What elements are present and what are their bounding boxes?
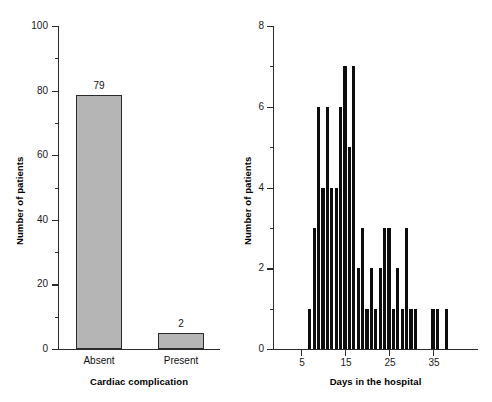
histogram-bar bbox=[370, 268, 373, 349]
panel-days-in-hospital: 8 6 4 2 0 Number of patients 5 15 25 35 … bbox=[246, 0, 492, 402]
left-yminortick-30 bbox=[55, 252, 59, 253]
left-x-axis bbox=[58, 349, 220, 350]
histogram-bars bbox=[246, 0, 492, 402]
left-ytick-label-20: 20 bbox=[18, 279, 48, 289]
right-x-axis-title: Days in the hospital bbox=[273, 376, 478, 387]
histogram-bar bbox=[352, 66, 355, 349]
histogram-bar bbox=[321, 188, 324, 350]
bar-absent bbox=[76, 95, 122, 349]
left-x-axis-title: Cardiac complication bbox=[58, 376, 220, 387]
left-ytick-0 bbox=[52, 349, 58, 350]
histogram-bar bbox=[357, 268, 360, 349]
histogram-bar bbox=[343, 66, 346, 349]
histogram-bar bbox=[308, 309, 311, 349]
left-ytick-40 bbox=[52, 220, 58, 221]
left-yminortick-70 bbox=[55, 123, 59, 124]
xtick-label-absent: Absent bbox=[69, 355, 129, 366]
histogram-bar bbox=[436, 309, 439, 349]
left-ytick-60 bbox=[52, 155, 58, 156]
histogram-bar bbox=[396, 268, 399, 349]
histogram-bar bbox=[335, 188, 338, 350]
histogram-bar bbox=[374, 309, 377, 349]
histogram-bar bbox=[330, 188, 333, 350]
histogram-bar bbox=[379, 268, 382, 349]
histogram-bar bbox=[348, 147, 351, 349]
left-y-axis-title: Number of patients bbox=[14, 157, 25, 245]
left-ytick-100 bbox=[52, 26, 58, 27]
left-yminortick-10 bbox=[55, 317, 59, 318]
histogram-bar bbox=[365, 309, 368, 349]
histogram-bar bbox=[405, 228, 408, 349]
histogram-bar bbox=[361, 228, 364, 349]
histogram-bar bbox=[317, 107, 320, 349]
histogram-bar bbox=[326, 107, 329, 349]
bar-value-absent: 79 bbox=[76, 81, 122, 91]
left-ytick-80 bbox=[52, 91, 58, 92]
bar-present bbox=[158, 333, 204, 349]
left-y-axis bbox=[58, 26, 59, 350]
panel-cardiac-complication: 100 80 60 40 20 0 Number of patients 79 … bbox=[0, 0, 246, 402]
histogram-bar bbox=[445, 309, 448, 349]
figure: 100 80 60 40 20 0 Number of patients 79 … bbox=[0, 0, 492, 402]
histogram-bar bbox=[392, 309, 395, 349]
histogram-bar bbox=[409, 309, 412, 349]
left-ytick-20 bbox=[52, 284, 58, 285]
left-ytick-label-100: 100 bbox=[18, 21, 48, 31]
left-yminortick-90 bbox=[55, 58, 59, 59]
left-ytick-label-80: 80 bbox=[18, 86, 48, 96]
left-ytick-label-0: 0 bbox=[18, 344, 48, 354]
xtick-label-present: Present bbox=[151, 355, 211, 366]
histogram-bar bbox=[387, 228, 390, 349]
histogram-bar bbox=[401, 309, 404, 349]
histogram-bar bbox=[339, 107, 342, 349]
bar-value-present: 2 bbox=[158, 319, 204, 329]
histogram-bar bbox=[383, 228, 386, 349]
histogram-bar bbox=[313, 228, 316, 349]
histogram-bar bbox=[414, 309, 417, 349]
histogram-bar bbox=[431, 309, 434, 349]
left-yminortick-50 bbox=[55, 188, 59, 189]
